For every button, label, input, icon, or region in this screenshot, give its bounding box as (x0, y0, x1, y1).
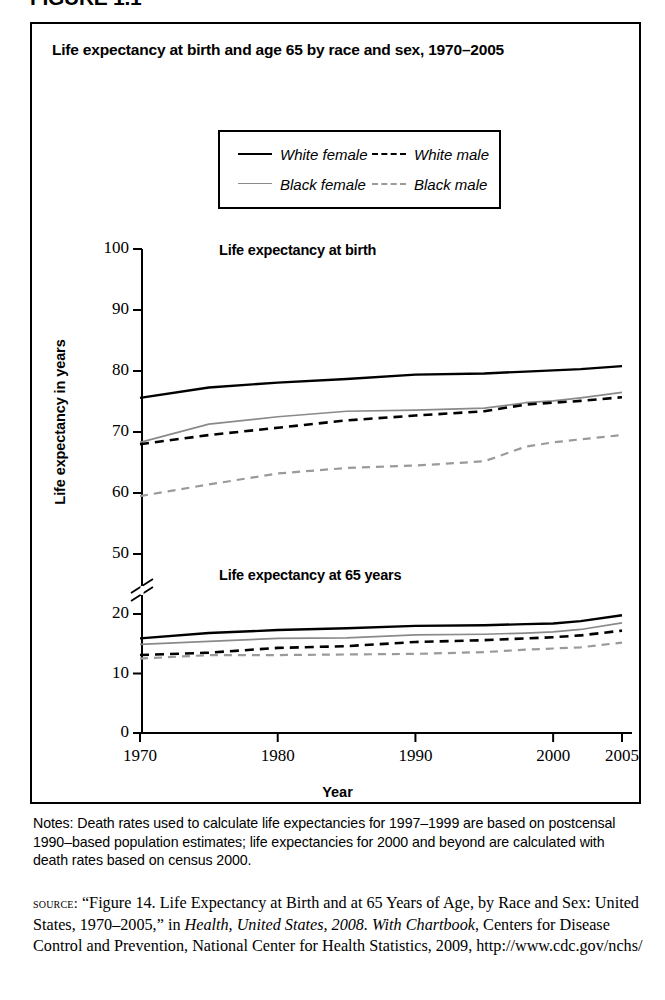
y-axis-title: Life expectancy in years (52, 332, 68, 512)
plot-area: Life expectancy at birth Life expectancy… (32, 24, 643, 806)
x-tick-label: 1970 (105, 746, 175, 766)
y-tick-label: 90 (87, 299, 129, 319)
y-tick-label: 0 (87, 722, 129, 742)
y-tick-label: 70 (87, 421, 129, 441)
x-tick-label: 2000 (518, 746, 588, 766)
y-tick-label: 60 (87, 482, 129, 502)
panel-caption-birth: Life expectancy at birth (219, 242, 376, 258)
x-axis-title: Year (32, 784, 643, 800)
x-tick-label: 1980 (243, 746, 313, 766)
y-tick-label: 50 (87, 543, 129, 563)
x-tick-label: 2005 (587, 746, 657, 766)
chart-frame: Life expectancy at birth and age 65 by r… (30, 22, 641, 804)
y-tick-label: 80 (87, 360, 129, 380)
chart-canvas (32, 24, 643, 806)
source-publication-title: Health, United States, 2008. With Chartb… (185, 916, 475, 934)
chart-notes: Notes: Death rates used to calculate lif… (33, 814, 641, 870)
chart-source: source: “Figure 14. Life Expectancy at B… (33, 893, 645, 958)
source-kicker: source: (33, 895, 78, 911)
x-tick-label: 1990 (380, 746, 450, 766)
y-tick-label: 20 (87, 603, 129, 623)
figure-label: FIGURE 1.1 (30, 0, 141, 10)
y-tick-label: 10 (87, 663, 129, 683)
panel-caption-age65: Life expectancy at 65 years (219, 567, 401, 583)
y-tick-label: 100 (87, 238, 129, 258)
